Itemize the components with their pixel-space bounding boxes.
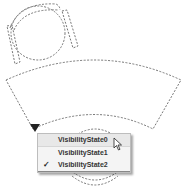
curved-desk-outline (6, 60, 181, 129)
menu-item-label: VisibilityState2 (58, 161, 108, 168)
visibility-grip-icon[interactable] (30, 124, 40, 132)
menu-item-label: VisibilityState0 (58, 136, 108, 143)
round-table-outline (11, 6, 65, 60)
chair-arc-outer (10, 4, 60, 28)
lower-arc-2 (72, 176, 118, 185)
checkmark-icon: ✓ (43, 159, 50, 171)
left-chair-outline (7, 25, 20, 64)
mouse-pointer-icon (113, 137, 123, 151)
menu-item-label: VisibilityState1 (58, 149, 108, 156)
menu-item-visibility-state-2[interactable]: ✓ VisibilityState2 (38, 159, 130, 172)
